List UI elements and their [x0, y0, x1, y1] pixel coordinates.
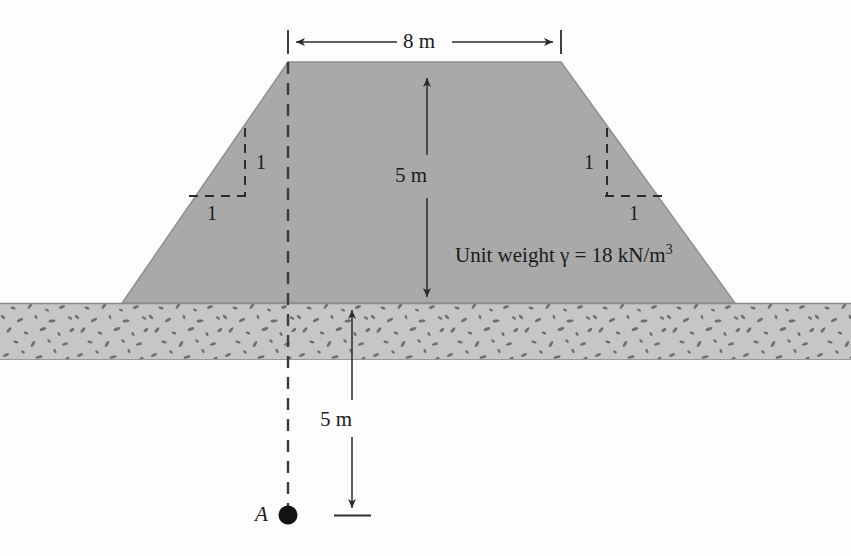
unit-weight-text: Unit weight γ = 18 kN/m	[455, 243, 666, 267]
unit-weight-label: Unit weight γ = 18 kN/m3	[455, 243, 673, 266]
figure-canvas	[0, 0, 851, 556]
unit-weight-exponent: 3	[666, 242, 673, 257]
embankment-height-label: 5 m	[395, 165, 427, 186]
point-a-marker	[279, 506, 298, 525]
top-width-label: 8 m	[403, 31, 435, 52]
ground-layer	[0, 303, 851, 360]
slope-right-horizontal-label: 1	[629, 203, 639, 223]
slope-right-vertical-label: 1	[584, 152, 594, 172]
embankment-figure: 8 m 5 m 5 m Unit weight γ = 18 kN/m3 1 1…	[0, 0, 851, 556]
point-a-label: A	[255, 504, 268, 525]
slope-left-horizontal-label: 1	[207, 203, 217, 223]
depth-label: 5 m	[320, 409, 352, 430]
slope-left-vertical-label: 1	[256, 152, 266, 172]
